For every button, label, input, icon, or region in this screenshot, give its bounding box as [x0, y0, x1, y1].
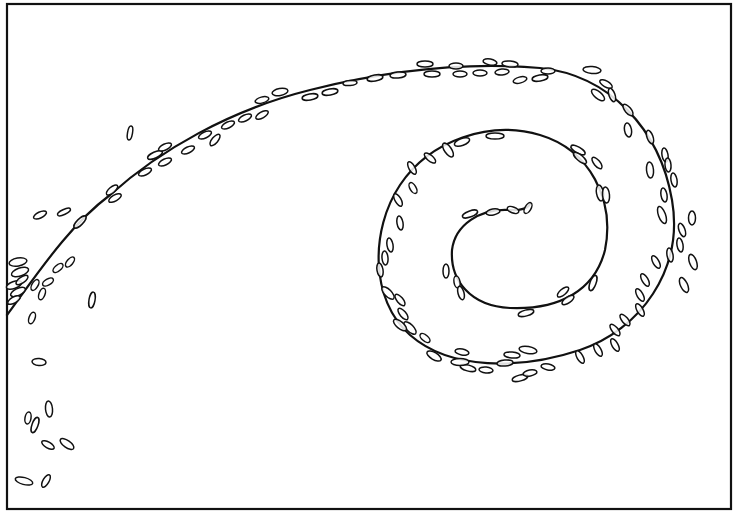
particle-ellipse [497, 359, 513, 366]
spiral-illustration [0, 0, 735, 520]
particle-ellipse [479, 366, 493, 373]
particle-ellipse [453, 71, 467, 77]
particle-ellipse [449, 63, 463, 69]
particle-ellipse [541, 68, 555, 74]
particle-ellipse [343, 80, 357, 86]
particle-ellipse [689, 211, 696, 225]
particle-ellipse [486, 133, 504, 139]
particle-ellipse [495, 68, 509, 75]
particle-ellipse [424, 71, 440, 77]
particle-ellipse [443, 264, 449, 278]
particle-ellipse [504, 351, 520, 358]
particle-ellipse [451, 359, 469, 366]
particle-ellipse [32, 358, 47, 366]
particle-ellipse [417, 61, 433, 67]
particle-ellipse [502, 60, 518, 67]
particle-ellipse [473, 70, 487, 76]
particle-ellipse [381, 251, 388, 265]
particle-ellipse [390, 71, 406, 78]
particle-ellipse [664, 158, 671, 172]
figure-canvas [0, 0, 735, 520]
